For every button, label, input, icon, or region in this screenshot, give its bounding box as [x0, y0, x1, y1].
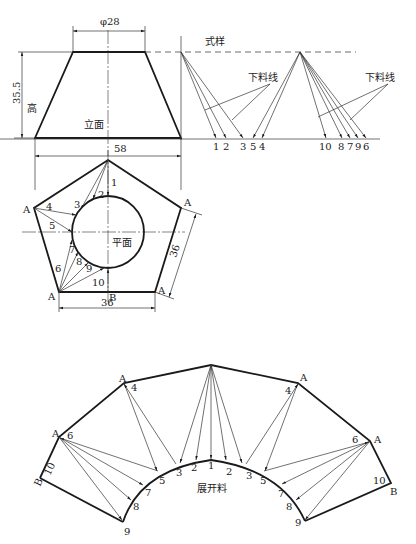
svg-text:7: 7 — [278, 488, 284, 499]
svg-text:2: 2 — [98, 189, 104, 200]
svg-text:5: 5 — [49, 220, 55, 231]
svg-text:10: 10 — [92, 277, 105, 288]
svg-text:5: 5 — [159, 475, 165, 486]
svg-text:8: 8 — [76, 256, 82, 267]
svg-text:9: 9 — [86, 263, 92, 274]
svg-text:1: 1 — [208, 460, 214, 471]
svg-text:9: 9 — [295, 517, 301, 528]
template-title: 式样 — [205, 35, 225, 47]
svg-text:A: A — [47, 291, 56, 302]
svg-text:6: 6 — [55, 263, 61, 274]
svg-text:3: 3 — [176, 467, 182, 478]
svg-text:1: 1 — [213, 141, 219, 152]
svg-text:4: 4 — [131, 382, 137, 393]
development-outer-outline — [40, 365, 391, 521]
plan-view: 平面 1 2 3 4 5 6 7 8 9 10 A A A A B 36 — [22, 150, 202, 312]
svg-text:9: 9 — [124, 526, 130, 537]
svg-text:A: A — [183, 197, 192, 208]
svg-text:6: 6 — [363, 141, 369, 152]
svg-text:1: 1 — [111, 177, 117, 188]
svg-text:3: 3 — [74, 199, 80, 210]
svg-text:10: 10 — [42, 461, 57, 477]
svg-text:7: 7 — [69, 244, 75, 255]
elevation-title: 立面 — [84, 118, 104, 130]
svg-text:6: 6 — [67, 430, 73, 441]
elevation-view: φ28 35.5 高 立面 58 — [11, 16, 181, 190]
cut-line-label-2: 下料线 — [365, 71, 395, 83]
height-text: 高 — [27, 102, 37, 114]
svg-text:2: 2 — [223, 141, 229, 152]
svg-text:2: 2 — [191, 462, 197, 473]
svg-text:4: 4 — [46, 201, 52, 212]
svg-text:3: 3 — [246, 470, 252, 481]
svg-text:A: A — [299, 372, 308, 383]
svg-text:B: B — [390, 486, 397, 497]
svg-text:A: A — [118, 373, 127, 384]
template-view: 式样 下料线 下料线 1 2 3 5 4 10 8 7 9 6 — [0, 35, 395, 152]
svg-text:9: 9 — [355, 141, 361, 152]
svg-text:B: B — [32, 477, 45, 488]
svg-text:7: 7 — [347, 141, 353, 152]
svg-text:36: 36 — [101, 297, 114, 308]
svg-text:A: A — [373, 434, 382, 445]
svg-text:3: 3 — [240, 141, 246, 152]
svg-text:8: 8 — [286, 501, 292, 512]
svg-text:4: 4 — [285, 385, 291, 396]
svg-text:A: A — [22, 204, 31, 215]
cut-line-label-1: 下料线 — [248, 71, 278, 83]
svg-text:A: A — [51, 428, 60, 439]
development-title: 展开料 — [197, 482, 227, 494]
development-left-seam — [40, 478, 123, 522]
sheet-metal-development-drawing: φ28 35.5 高 立面 58 式样 下料线 — [0, 0, 416, 544]
svg-text:5: 5 — [250, 141, 256, 152]
top-diameter-label: φ28 — [100, 16, 120, 27]
height-label: 35.5 — [11, 82, 22, 104]
svg-text:7: 7 — [145, 487, 151, 498]
svg-text:4: 4 — [259, 141, 265, 152]
svg-text:36: 36 — [167, 243, 181, 259]
svg-text:6: 6 — [352, 434, 358, 445]
bottom-width-label: 58 — [114, 143, 127, 154]
plan-title: 平面 — [112, 237, 132, 248]
svg-text:2: 2 — [226, 466, 232, 477]
development-view: 3 2 1 2 3 展开料 A 4 A 6 5 7 8 9 10 B A 4 A… — [32, 365, 398, 537]
svg-text:10: 10 — [373, 475, 386, 486]
svg-text:10: 10 — [319, 141, 332, 152]
svg-text:8: 8 — [338, 141, 344, 152]
svg-text:5: 5 — [260, 475, 266, 486]
svg-text:8: 8 — [133, 501, 139, 512]
